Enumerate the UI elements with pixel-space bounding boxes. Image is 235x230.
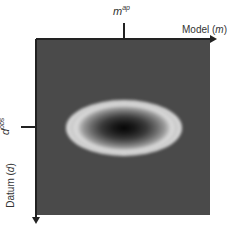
m-ap-label: map <box>113 4 130 17</box>
datum-axis-label: Datum (d) <box>5 163 16 207</box>
model-axis-label: Model (m) <box>182 24 227 35</box>
datum-axis-arrow-icon <box>32 217 40 224</box>
model-axis-arrow-icon <box>210 35 217 43</box>
m-ap-tick <box>123 23 125 39</box>
d-obs-tick <box>21 126 36 128</box>
datum-axis-line <box>35 39 37 219</box>
probability-density-plot <box>36 39 210 215</box>
elliptical-density-blob <box>66 100 182 156</box>
d-obs-label: dobs <box>0 118 11 135</box>
